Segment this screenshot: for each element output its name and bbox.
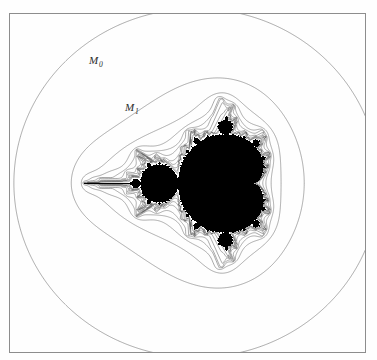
contour-label-m1-base: M <box>125 101 134 113</box>
contour-label-m1: M1 <box>125 101 138 113</box>
contour-label-m0-base: M <box>89 54 98 66</box>
contour-label-m0-subscript: 0 <box>99 60 103 69</box>
contour-label-m1-subscript: 1 <box>135 107 139 116</box>
figure-border-frame: M0 M1 <box>9 13 366 353</box>
contour-label-m0: M0 <box>89 54 102 66</box>
figure-root: M0 M1 <box>0 0 377 360</box>
mandelbrot-contour-plot <box>10 14 365 352</box>
